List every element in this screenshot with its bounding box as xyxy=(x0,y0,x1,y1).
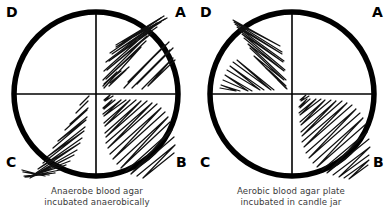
streak-plate-figure: D A C B Anaerobe blood agar incubated an… xyxy=(0,0,388,217)
quadrant-label-C: C xyxy=(6,155,16,169)
petri-dish-aerobic xyxy=(194,0,388,190)
petri-dish-anaerobe xyxy=(0,0,194,190)
quadrant-label-B: B xyxy=(176,155,187,169)
plate-caption-anaerobe: Anaerobe blood agar incubated anaerobica… xyxy=(0,186,194,208)
caption-line-1: Anaerobe blood agar xyxy=(0,186,194,197)
plate-caption-aerobic: Aerobic blood agar plate incubated in ca… xyxy=(194,186,388,208)
quadrant-label-D: D xyxy=(200,5,212,19)
quadrant-label-A: A xyxy=(372,5,383,19)
plate-panel-anaerobe: D A C B Anaerobe blood agar incubated an… xyxy=(0,0,194,217)
caption-line-1: Aerobic blood agar plate xyxy=(194,186,388,197)
caption-line-2: incubated in candle jar xyxy=(194,197,388,208)
quadrant-label-A: A xyxy=(175,5,186,19)
quadrant-label-B: B xyxy=(373,155,384,169)
quadrant-label-D: D xyxy=(6,5,18,19)
plate-panel-aerobic: D A C B Aerobic blood agar plate incubat… xyxy=(194,0,388,217)
caption-line-2: incubated anaerobically xyxy=(0,197,194,208)
quadrant-label-C: C xyxy=(200,155,210,169)
